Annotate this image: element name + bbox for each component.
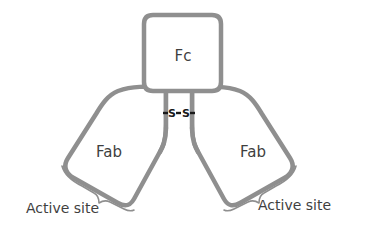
sulfur-left: S: [168, 107, 176, 120]
active-site-right-label: Active site: [258, 197, 331, 213]
fab-left-label: Fab: [96, 143, 122, 161]
sulfur-right: S: [182, 107, 190, 120]
fc-label: Fc: [175, 47, 192, 65]
fc-region: Fc: [144, 15, 221, 91]
antibody-diagram: Fc Fab Fab S S Active site Active site: [0, 0, 372, 241]
hinge-region: [160, 88, 198, 152]
active-site-left-label: Active site: [26, 200, 99, 216]
fab-right-label: Fab: [240, 143, 266, 161]
